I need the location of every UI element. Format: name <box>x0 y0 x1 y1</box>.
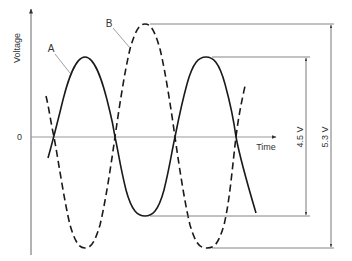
leader-b <box>113 28 130 48</box>
curve-b <box>46 24 245 248</box>
label-a: A <box>48 43 55 54</box>
dim-label-a: 4.5 V <box>295 126 305 147</box>
waveform-diagram: Voltage Time 0 A B 4.5 V 5.3 V <box>0 0 352 261</box>
x-axis-label: Time <box>256 142 276 152</box>
y-axis-label: Voltage <box>12 33 22 63</box>
zero-tick-label: 0 <box>17 132 22 142</box>
dim-label-b: 5.3 V <box>320 126 330 147</box>
leader-a <box>55 54 70 73</box>
label-b: B <box>106 18 113 29</box>
